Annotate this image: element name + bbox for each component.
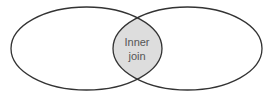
intersection-label-line1: Inner <box>117 35 157 49</box>
intersection-label: Inner join <box>117 35 157 63</box>
intersection-label-line2: join <box>117 49 157 63</box>
